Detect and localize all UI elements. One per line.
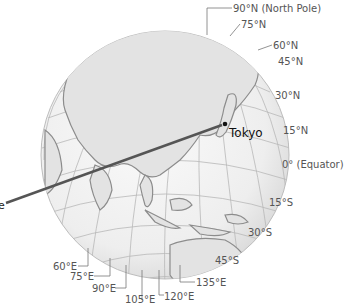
lon-label-120e: 120°E [164, 291, 194, 302]
lon-label-135e: 135°E [196, 277, 226, 288]
city-label-tokyo: Tokyo [229, 126, 263, 140]
lat-label-15s: 15°S [269, 197, 293, 208]
lon-label-75e: 75°E [70, 271, 94, 282]
pointer-label-fragment: e [0, 200, 5, 211]
lat-label-equator: 0° (Equator) [282, 159, 344, 170]
lat-label-45n: 45°N [278, 56, 303, 67]
lat-label-30n: 30°N [275, 90, 300, 101]
lon-label-105e: 105°E [125, 294, 155, 305]
lat-label-30s: 30°S [248, 227, 272, 238]
lat-label-90n: 90°N (North Pole) [233, 3, 321, 14]
tokyo-marker [223, 122, 228, 127]
lat-label-75n: 75°N [241, 19, 266, 30]
lat-label-15n: 15°N [283, 125, 308, 136]
lat-label-60n: 60°N [273, 40, 298, 51]
lon-label-90e: 90°E [92, 283, 116, 294]
lat-label-45s: 45°S [215, 255, 239, 266]
